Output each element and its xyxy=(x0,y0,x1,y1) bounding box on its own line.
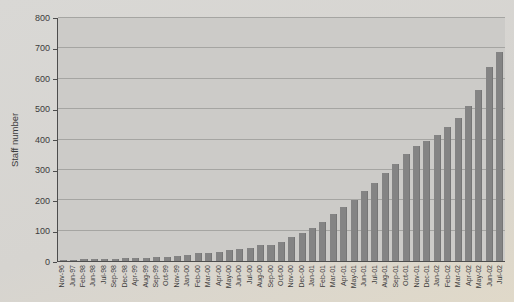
bar-cell xyxy=(349,18,359,261)
bar-cell xyxy=(411,18,421,261)
x-tick-label: Sep-01 xyxy=(392,265,400,288)
x-tick-label: Feb-01 xyxy=(319,265,327,287)
x-tick-label: Nov-00 xyxy=(287,265,295,288)
y-tick-label: 300 xyxy=(4,165,50,176)
bar-Mar-02 xyxy=(455,118,462,261)
bar-Nov-00 xyxy=(288,237,295,261)
bar-Oct-00 xyxy=(278,242,285,261)
bar-cell xyxy=(463,18,473,261)
y-tick-label: 600 xyxy=(4,74,50,85)
bar-Nov-99 xyxy=(174,256,181,261)
bar-Jan-00 xyxy=(184,255,191,261)
bar-cell xyxy=(152,18,162,261)
bar-Jan-01 xyxy=(309,228,316,261)
bar-Nov-96 xyxy=(60,260,67,261)
bar-Apr-01 xyxy=(340,207,347,261)
x-tick-label: Jun-02 xyxy=(486,265,494,286)
bar-cell xyxy=(131,18,141,261)
bar-Sep-01 xyxy=(392,164,399,261)
bar-series xyxy=(58,18,505,261)
x-tick-label: Apr-00 xyxy=(215,265,223,286)
bar-cell xyxy=(276,18,286,261)
bar-Dec-01 xyxy=(423,141,430,261)
bar-cell xyxy=(494,18,504,261)
x-tick-label: Dec-01 xyxy=(423,265,431,288)
bar-cell xyxy=(255,18,265,261)
bar-cell xyxy=(318,18,328,261)
bar-Oct-01 xyxy=(403,154,410,261)
bar-cell xyxy=(58,18,68,261)
bar-cell xyxy=(359,18,369,261)
bar-cell xyxy=(120,18,130,261)
bar-May-01 xyxy=(351,200,358,261)
x-tick-label: Oct-01 xyxy=(402,265,410,286)
x-tick-label: Nov-01 xyxy=(413,265,421,288)
x-tick-label: Jun-00 xyxy=(235,265,243,286)
x-tick-label: Feb-02 xyxy=(444,265,452,287)
x-tick-label: Oct-00 xyxy=(277,265,285,286)
bar-Feb-98 xyxy=(80,259,87,261)
x-tick-label: Apr-99 xyxy=(131,265,139,286)
bar-cell xyxy=(287,18,297,261)
x-tick-label: Mar-01 xyxy=(329,265,337,287)
bar-cell xyxy=(245,18,255,261)
bar-cell xyxy=(172,18,182,261)
bar-cell xyxy=(339,18,349,261)
bar-cell xyxy=(235,18,245,261)
bar-cell xyxy=(442,18,452,261)
x-axis-tick-labels: Nov-96Jun-97Feb-98Jun-98Jul-98Sep-98Dec-… xyxy=(57,265,505,301)
bar-cell xyxy=(328,18,338,261)
bar-Dec-00 xyxy=(299,233,306,261)
x-tick-label: Aug-00 xyxy=(256,265,264,288)
x-tick-label: Jan-02 xyxy=(433,265,441,286)
x-tick-label: Nov-99 xyxy=(173,265,181,288)
x-tick-label: Apr-01 xyxy=(340,265,348,286)
x-tick-label: Mar-00 xyxy=(204,265,212,287)
bar-Aug-99 xyxy=(143,258,150,261)
y-tick-label: 200 xyxy=(4,196,50,207)
x-tick-label: Dec-98 xyxy=(121,265,129,288)
x-tick-label: Feb-00 xyxy=(194,265,202,287)
x-tick-label: Aug-01 xyxy=(381,265,389,288)
bar-cell xyxy=(474,18,484,261)
x-tick-label: Sep-98 xyxy=(110,265,118,288)
x-tick-label: Aug-99 xyxy=(142,265,150,288)
x-tick-label: Jul-02 xyxy=(496,265,504,284)
bar-Apr-99 xyxy=(132,258,139,261)
x-tick-label: Mar-02 xyxy=(454,265,462,287)
bar-Sep-00 xyxy=(267,245,274,261)
x-tick-label: May-01 xyxy=(350,265,358,288)
bar-Jul-01 xyxy=(371,183,378,261)
x-tick-label: Oct-99 xyxy=(162,265,170,286)
bar-Jan-02 xyxy=(434,135,441,261)
bar-Mar-01 xyxy=(330,214,337,261)
bar-cell xyxy=(307,18,317,261)
bar-Jun-01 xyxy=(361,191,368,261)
x-tick-label: May-00 xyxy=(225,265,233,288)
x-tick-label: Jan-01 xyxy=(308,265,316,286)
bar-cell xyxy=(79,18,89,261)
bar-Nov-01 xyxy=(413,146,420,261)
x-tick-label: Jun-01 xyxy=(360,265,368,286)
x-tick-label: Jun-98 xyxy=(89,265,97,286)
bar-Aug-01 xyxy=(382,173,389,261)
bar-cell xyxy=(89,18,99,261)
bar-Aug-00 xyxy=(257,245,264,261)
bar-cell xyxy=(141,18,151,261)
bar-cell xyxy=(224,18,234,261)
bar-Jul-00 xyxy=(247,248,254,261)
bar-Mar-00 xyxy=(205,253,212,262)
y-tick-label: 500 xyxy=(4,104,50,115)
y-tick-label: 700 xyxy=(4,43,50,54)
bar-cell xyxy=(193,18,203,261)
bar-cell xyxy=(110,18,120,261)
bar-Jun-02 xyxy=(486,67,493,261)
bar-Feb-02 xyxy=(444,127,451,261)
bar-cell xyxy=(266,18,276,261)
plot-area xyxy=(57,18,505,262)
x-tick-label: Jun-97 xyxy=(69,265,77,286)
y-tick-label: 800 xyxy=(4,13,50,24)
bar-Sep-98 xyxy=(112,259,119,261)
bar-cell xyxy=(401,18,411,261)
x-tick-label: Sep-99 xyxy=(152,265,160,288)
